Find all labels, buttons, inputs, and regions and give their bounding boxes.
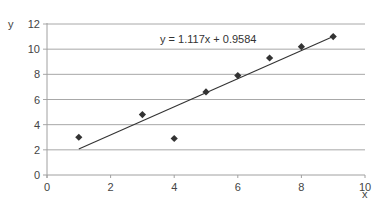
x-tick-label: 6 [235, 181, 241, 193]
y-tick-label: 4 [34, 119, 40, 131]
y-axis-ticks: 024681012 [28, 18, 40, 181]
y-tick-label: 10 [28, 43, 40, 55]
x-tick-label: 8 [298, 181, 304, 193]
x-tick-label: 4 [171, 181, 177, 193]
data-point-marker [171, 135, 178, 142]
data-point-marker [202, 88, 209, 95]
data-point-marker [330, 33, 337, 40]
x-tick-label: 2 [108, 181, 114, 193]
y-tick-label: 0 [34, 169, 40, 181]
y-tick-label: 2 [34, 144, 40, 156]
trendline-equation: y = 1.117x + 0.9584 [160, 33, 256, 45]
y-tick-label: 12 [28, 18, 40, 30]
data-point-marker [75, 134, 82, 141]
x-axis-ticks: 0246810 [44, 175, 371, 193]
y-axis-title: y [8, 18, 14, 30]
y-tick-label: 8 [34, 68, 40, 80]
data-point-marker [234, 72, 241, 79]
data-point-marker [139, 111, 146, 118]
data-point-marker [266, 54, 273, 61]
y-tick-label: 6 [34, 94, 40, 106]
axes [43, 23, 365, 178]
x-tick-label: 0 [44, 181, 50, 193]
x-axis-title: x [362, 188, 368, 200]
scatter-chart: 024681012 0246810 y x y = 1.117x + 0.958… [0, 0, 388, 220]
